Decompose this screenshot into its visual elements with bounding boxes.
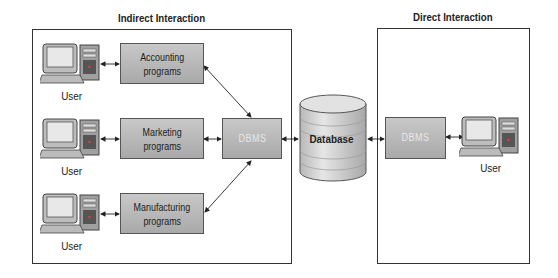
dbms-indirect-label: DBMS [238, 132, 266, 146]
accounting-label: Accounting [140, 50, 184, 64]
user-computer-icon [40, 192, 104, 240]
marketing-label: Marketing [142, 125, 181, 139]
database-label: Database [309, 133, 353, 145]
user-label-direct: User [480, 162, 501, 174]
user-computer-icon [459, 115, 523, 163]
user-label-2: User [61, 165, 82, 177]
dbms-direct-box: DBMS [385, 117, 446, 159]
marketing-programs-box: Marketingprograms [120, 118, 204, 159]
manufacturing-programs-box: Manufacturingprograms [120, 193, 204, 234]
accounting-programs-box: Accountingprograms [120, 43, 204, 84]
dbms-direct-label: DBMS [402, 131, 430, 145]
accounting-programs-label: programs [143, 64, 181, 78]
user-label-1: User [61, 90, 82, 102]
manufacturing-programs-label: programs [143, 214, 181, 228]
user-label-3: User [61, 240, 82, 252]
manufacturing-label: Manufacturing [134, 200, 190, 214]
dbms-indirect-box: DBMS [222, 118, 282, 159]
user-computer-icon [40, 117, 104, 165]
user-computer-icon [40, 42, 104, 90]
marketing-programs-label: programs [143, 139, 181, 153]
